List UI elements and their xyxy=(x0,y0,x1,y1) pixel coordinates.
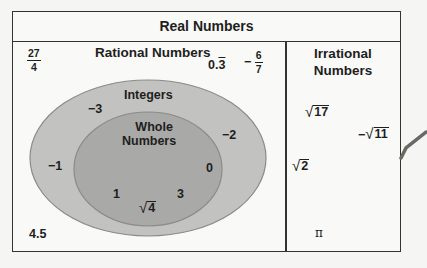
sqrt-argument: 4 xyxy=(147,201,156,215)
whole-numbers-label: Whole Numbers xyxy=(132,120,176,148)
fraction-numerator: 6 xyxy=(255,50,263,63)
minus-sign: − xyxy=(244,55,251,69)
whole-number-1: 1 xyxy=(113,187,120,201)
fraction-denominator: 7 xyxy=(256,63,262,75)
repeating-digit: 3 xyxy=(218,58,225,72)
sqrt-argument: 2 xyxy=(300,159,309,173)
rational-numbers-heading: Rational Numbers xyxy=(95,45,211,60)
pi-symbol: π xyxy=(315,226,323,240)
whole-numbers-label-line2: Numbers xyxy=(122,134,176,148)
decimal-4-5: 4.5 xyxy=(29,227,46,241)
radical-icon: √ xyxy=(305,104,313,119)
fraction-denominator: 4 xyxy=(31,61,37,73)
whole-numbers-label-line1: Whole xyxy=(132,120,176,134)
sqrt-argument: 11 xyxy=(374,127,389,141)
radical-icon: √ xyxy=(365,126,373,141)
repeating-decimal: 0.3 xyxy=(208,58,225,72)
minus-sign: − xyxy=(358,128,365,142)
sqrt-2: √2 xyxy=(292,158,309,174)
sqrt-17: √17 xyxy=(305,104,329,120)
irrational-heading-line1: Irrational xyxy=(302,45,384,62)
decorative-swoosh xyxy=(398,130,427,160)
radical-icon: √ xyxy=(139,200,147,215)
whole-number-0: 0 xyxy=(206,161,213,175)
sqrt-argument: 17 xyxy=(313,105,329,119)
repeating-int: 0. xyxy=(208,58,218,72)
negative-fraction-6-7: − 67 xyxy=(244,50,263,74)
neg-sqrt-11: −√11 xyxy=(358,126,389,142)
integer-neg-1: −1 xyxy=(48,159,62,173)
irrational-heading-line2: Numbers xyxy=(302,62,384,79)
fraction-27-4: 274 xyxy=(27,48,41,72)
whole-number-3: 3 xyxy=(177,187,184,201)
sqrt-4: √4 xyxy=(139,200,156,216)
integer-neg-2: −2 xyxy=(222,128,236,142)
integer-neg-3: −3 xyxy=(88,102,102,116)
irrational-numbers-heading: Irrational Numbers xyxy=(302,45,384,79)
radical-icon: √ xyxy=(292,158,300,173)
fraction-numerator: 27 xyxy=(27,48,41,61)
integers-label: Integers xyxy=(124,88,173,102)
